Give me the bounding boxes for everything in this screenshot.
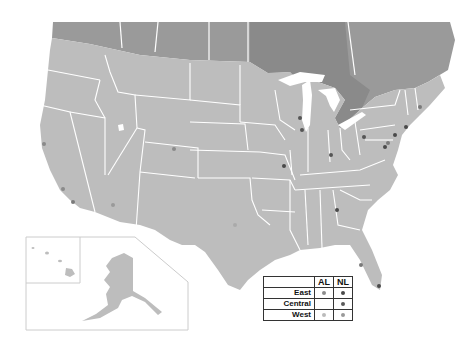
legend-header-al: AL [315,277,334,288]
hawaii [32,247,76,277]
legend-row-central: Central [264,299,353,310]
team-marker-dot-icon [233,223,237,227]
legend-label-central: Central [264,299,315,310]
legend-row-west: West [264,310,353,321]
team-marker-dot-icon [418,105,422,109]
legend-label-west: West [264,310,315,321]
legend-label-east: East [264,288,315,299]
team-marker-dot-icon [362,135,366,139]
us-map [0,0,476,353]
nl-east-dot-icon [341,291,345,295]
legend-al-west [315,310,334,321]
team-marker-dot-icon [282,164,286,168]
team-marker-dot-icon [300,128,304,132]
team-marker-dot-icon [359,263,363,267]
nl-central-dot-icon [341,302,345,306]
legend-nl-east [334,288,353,299]
al-east-dot-icon [322,291,326,295]
team-marker-dot-icon [404,125,408,129]
team-marker-dot-icon [172,147,176,151]
team-marker-dot-icon [377,284,381,288]
alaska [82,253,162,321]
al-west-dot-icon [322,313,326,317]
great-salt-lake [118,124,124,131]
legend-corner [264,277,315,288]
team-marker-dot-icon [42,142,46,146]
team-marker-dot-icon [298,116,302,120]
legend-al-east [315,288,334,299]
legend-nl-west [334,310,353,321]
team-marker-dot-icon [61,187,65,191]
team-marker-dot-icon [335,208,339,212]
nl-west-dot-icon [341,313,345,317]
legend-nl-central [334,299,353,310]
league-legend: AL NL East Central West [263,276,353,321]
team-marker-dot-icon [386,141,390,145]
team-marker-dot-icon [393,133,397,137]
legend-al-central [315,299,334,310]
team-marker-dot-icon [383,145,387,149]
legend-row-east: East [264,288,353,299]
team-marker-dot-icon [71,200,75,204]
team-marker-dot-icon [111,203,115,207]
team-marker-dot-icon [329,153,333,157]
legend-header-nl: NL [334,277,353,288]
